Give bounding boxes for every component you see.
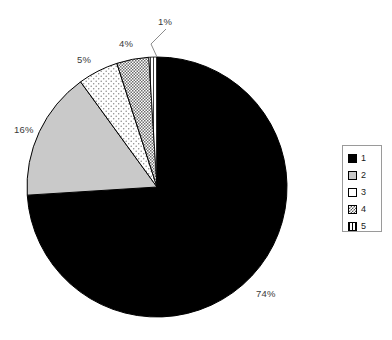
legend-label: 3: [361, 188, 366, 197]
pie-chart: 74% 16% 5% 4% 1% 12345: [0, 0, 392, 340]
legend-swatch-solid-black-icon: [348, 154, 357, 163]
pie-label-4-percent: 4%: [119, 39, 133, 49]
pie-label-5-percent: 5%: [77, 55, 91, 65]
legend-item-3[interactable]: 3: [348, 185, 381, 200]
legend-item-4[interactable]: 4: [348, 202, 381, 217]
pie-chart-canvas: [0, 0, 392, 340]
chart-legend: 12345: [342, 145, 382, 232]
legend-label: 5: [361, 222, 366, 231]
legend-swatch-crosshatch-icon: [348, 205, 357, 214]
legend-swatch-solid-gray-icon: [348, 171, 357, 180]
pie-label-16-percent: 16%: [14, 125, 34, 135]
legend-swatch-solid-white-icon: [348, 188, 357, 197]
leader-line-1-percent: [151, 29, 166, 57]
legend-item-1[interactable]: 1: [348, 151, 381, 166]
pie-label-1-percent: 1%: [158, 17, 172, 27]
legend-item-5[interactable]: 5: [348, 219, 381, 234]
legend-item-2[interactable]: 2: [348, 168, 381, 183]
legend-label: 1: [361, 154, 366, 163]
legend-label: 2: [361, 171, 366, 180]
legend-label: 4: [361, 205, 366, 214]
pie-slices-group: [27, 57, 287, 317]
pie-label-74-percent: 74%: [256, 289, 276, 299]
legend-swatch-vertical-lines-icon: [348, 222, 357, 231]
